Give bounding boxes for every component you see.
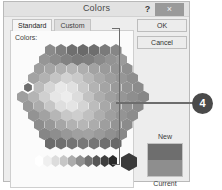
dialog-client-area: Standard Custom Colors: OK Cancel New Cu…: [4, 17, 189, 181]
screenshot-root: Colors ? × Standard Custom Colors: OK Ca…: [0, 0, 222, 190]
ramp-hex-cell[interactable]: [43, 155, 51, 167]
annotation-badge-4: 4: [192, 93, 213, 114]
help-icon[interactable]: ?: [142, 3, 153, 15]
ramp-hex-cell[interactable]: [92, 155, 100, 167]
color-preview-swatch: [147, 143, 183, 177]
annotation-leader-line: [116, 102, 198, 104]
annotation-bracket: [112, 28, 120, 165]
new-color-swatch: [148, 144, 182, 160]
tab-custom[interactable]: Custom: [54, 19, 90, 31]
tabstrip: Standard Custom: [12, 19, 91, 31]
cancel-button[interactable]: Cancel: [137, 36, 187, 49]
ramp-hex-cell[interactable]: [51, 155, 59, 167]
tab-standard[interactable]: Standard: [12, 19, 52, 31]
ramp-hex-cell[interactable]: [76, 155, 84, 167]
ramp-hex-cell[interactable]: [60, 155, 68, 167]
new-color-label: New: [145, 133, 185, 140]
current-color-label: Current: [145, 180, 185, 187]
close-icon[interactable]: ×: [155, 3, 184, 16]
ramp-hex-cell[interactable]: [68, 155, 76, 167]
colors-dialog: Colors ? × Standard Custom Colors: OK Ca…: [3, 1, 190, 182]
color-preview: New Current: [145, 133, 185, 190]
ramp-selected-hex[interactable]: [121, 153, 137, 171]
ramp-hex-cell[interactable]: [35, 155, 43, 167]
current-color-swatch: [148, 160, 182, 176]
ramp-hex-cell[interactable]: [101, 155, 109, 167]
ramp-hex-cell[interactable]: [84, 155, 92, 167]
ok-button[interactable]: OK: [137, 19, 187, 32]
colors-label: Colors:: [15, 34, 37, 41]
dialog-titlebar: Colors ? ×: [4, 2, 189, 17]
